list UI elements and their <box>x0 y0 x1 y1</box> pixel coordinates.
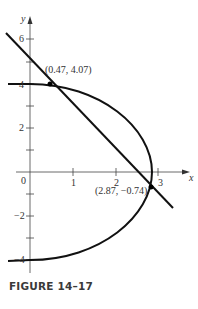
intersection-point <box>48 82 53 87</box>
x-tick-label: 1 <box>71 177 76 188</box>
y-tick-label: 4 <box>19 79 24 90</box>
y-axis-arrow-icon <box>28 16 33 24</box>
y-tick-label: 2 <box>19 122 24 133</box>
y-tick-label: −2 <box>14 210 25 221</box>
point-label: (2.87, −0.74) <box>95 185 147 197</box>
point-label: (0.47, 4.07) <box>45 64 92 76</box>
line-curve <box>6 33 173 208</box>
x-tick-label: 3 <box>158 177 163 188</box>
figure-caption: FIGURE 14–17 <box>9 280 93 292</box>
x-axis-label: x <box>188 172 194 183</box>
x-tick-label: 0 <box>21 175 26 186</box>
y-tick-label: 6 <box>19 33 24 44</box>
intersection-point <box>149 185 154 190</box>
y-axis-label: y <box>20 13 26 24</box>
y-tick-label: −4 <box>14 254 25 265</box>
figure-plot: y x 6 4 2 −2 −4 0 1 2 3 (0.47, 4.07) (2.… <box>0 0 198 309</box>
